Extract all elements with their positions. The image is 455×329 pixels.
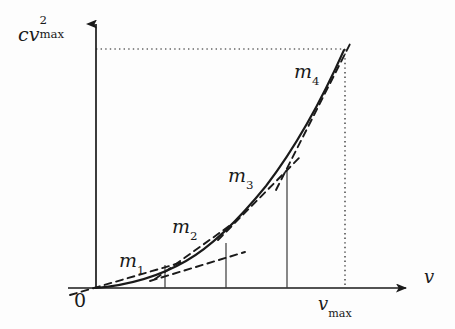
y-axis-label-stack: 2max: [39, 22, 51, 41]
figure-canvas: cv2max v vmax 0 m1 m2 m3 m4: [0, 0, 455, 329]
x-tick-label-base: v: [318, 293, 328, 314]
annotation-m1: m1: [119, 251, 145, 275]
annotation-m3-base: m: [228, 164, 246, 186]
y-axis-label-base: cv: [18, 23, 39, 45]
annotation-m4-subscript: 4: [312, 74, 320, 88]
y-axis-label-subscript: max: [39, 29, 64, 41]
annotation-m4: m4: [294, 62, 320, 86]
annotation-m3: m3: [228, 166, 254, 190]
annotation-m2: m2: [172, 217, 198, 241]
annotation-m2-subscript: 2: [190, 229, 198, 243]
x-tick-label-vmax: vmax: [318, 295, 352, 317]
annotation-m3-subscript: 3: [246, 178, 254, 192]
annotation-m4-base: m: [294, 60, 312, 82]
y-axis-label-superscript: 2: [39, 15, 47, 27]
annotation-m1-base: m: [119, 249, 137, 271]
x-tick-label-subscript: max: [328, 307, 352, 320]
x-axis-label: v: [424, 268, 434, 286]
annotation-m2-base: m: [172, 215, 190, 237]
y-axis-label: cv2max: [18, 22, 51, 44]
origin-label: 0: [74, 291, 86, 310]
annotation-m1-subscript: 1: [137, 263, 145, 277]
